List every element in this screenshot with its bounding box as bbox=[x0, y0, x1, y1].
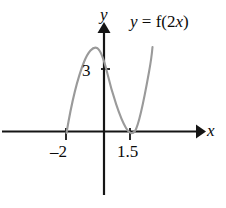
graph-figure: y x y = f(2x) 3 –2 1.5 bbox=[0, 0, 226, 208]
x-axis-arrowhead bbox=[196, 125, 206, 139]
y-intercept-tick-label: 3 bbox=[82, 62, 91, 79]
y-axis-label: y bbox=[100, 6, 108, 23]
x-axis-label: x bbox=[207, 122, 215, 139]
curve-label-variable: x bbox=[175, 12, 183, 31]
curve-label-equals: = bbox=[138, 12, 156, 31]
x-tick-label-neg2: –2 bbox=[50, 143, 67, 160]
curve-y-equals-f-2x bbox=[67, 47, 153, 133]
curve-label-function: f(2 bbox=[156, 12, 176, 31]
curve-label-y: y bbox=[130, 12, 138, 31]
graph-canvas bbox=[0, 0, 226, 208]
curve-label-suffix: ) bbox=[183, 12, 189, 31]
x-tick-label-1point5: 1.5 bbox=[117, 143, 138, 160]
curve-equation-label: y = f(2x) bbox=[130, 13, 189, 30]
